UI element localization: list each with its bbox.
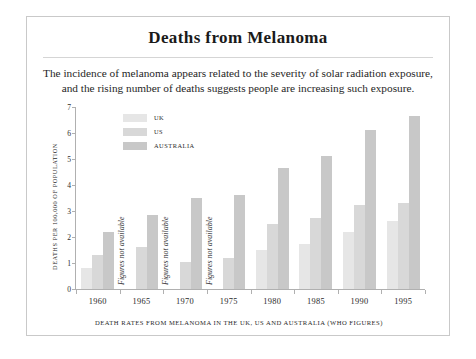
bar-group [76, 107, 120, 289]
bar-group [251, 107, 295, 289]
x-tick-mark [425, 290, 426, 294]
title-divider [43, 57, 433, 58]
y-tick-label: 5 [57, 155, 71, 164]
bar-group [294, 107, 338, 289]
y-tick-label: 4 [57, 181, 71, 190]
bar-us-1975 [223, 258, 234, 289]
y-tick-label: 0 [57, 285, 71, 294]
subtitle-line-2: and the rising number of deaths suggests… [62, 82, 415, 94]
x-tick-label: 1975 [207, 297, 251, 311]
bar-us-1965 [136, 247, 147, 289]
bar-us-1990 [354, 205, 365, 290]
bar-us-1980 [267, 224, 278, 289]
subtitle: The incidence of melanoma appears relate… [43, 66, 433, 95]
bar-au-1980 [278, 168, 289, 289]
x-tick-mark [120, 290, 121, 294]
chart-caption: DEATH RATES FROM MELANOMA IN THE UK, US … [27, 319, 451, 326]
bar-uk-1990 [343, 232, 354, 289]
bar-us-1960 [92, 255, 103, 289]
bar-group: Figures not available [207, 107, 251, 289]
x-tick-mark [294, 290, 295, 294]
x-tick-label: 1970 [163, 297, 207, 311]
page-title: Deaths from Melanoma [27, 28, 449, 48]
x-tick-label: 1985 [294, 297, 338, 311]
bar-us-1985 [310, 218, 321, 290]
chart-plot-area: DEATHS PER 100,000 OF POPULATION UK US A… [27, 97, 451, 337]
bar-uk-1995 [387, 221, 398, 289]
y-tick-label: 2 [57, 233, 71, 242]
bar-au-1985 [321, 156, 332, 289]
y-tick-label: 6 [57, 129, 71, 138]
bar-group: Figures not available [163, 107, 207, 289]
bar-us-1970 [180, 262, 191, 289]
bar-au-1975 [234, 195, 245, 289]
bar-au-1995 [409, 116, 420, 289]
missing-data-text: Figures not available [117, 216, 126, 285]
y-tick-label: 3 [57, 207, 71, 216]
missing-data-text: Figures not available [205, 216, 214, 285]
x-tick-mark [76, 290, 77, 294]
chart-card: Deaths from Melanoma The incidence of me… [26, 16, 450, 336]
bar-au-1990 [365, 130, 376, 289]
bar-uk-1985 [299, 244, 310, 290]
y-tick-label: 1 [57, 259, 71, 268]
missing-data-label: Figures not available [212, 107, 223, 289]
bar-au-1970 [191, 198, 202, 289]
bar-uk-1980 [256, 250, 267, 289]
bar-group: Figures not available [120, 107, 164, 289]
missing-data-text: Figures not available [161, 216, 170, 285]
x-tick-label: 1995 [381, 297, 425, 311]
x-tick-mark [163, 290, 164, 294]
chart-axes: 01234567 Figures not availableFigures no… [75, 107, 425, 290]
bar-au-1960 [103, 232, 114, 289]
x-tick-mark [251, 290, 252, 294]
bar-uk-1960 [81, 268, 92, 289]
bar-au-1965 [147, 215, 158, 289]
bar-group-container: Figures not availableFigures not availab… [76, 107, 425, 289]
y-tick-label: 7 [57, 103, 71, 112]
missing-data-label: Figures not available [125, 107, 136, 289]
x-tick-label: 1990 [338, 297, 382, 311]
bar-group [381, 107, 425, 289]
x-tick-label: 1965 [120, 297, 164, 311]
bar-group [338, 107, 382, 289]
x-tick-mark [338, 290, 339, 294]
x-tick-label: 1980 [251, 297, 295, 311]
x-tick-label: 1960 [76, 297, 120, 311]
subtitle-line-1: The incidence of melanoma appears relate… [43, 67, 433, 79]
x-axis-tick-labels: 19601965197019751980198519901995 [76, 297, 425, 311]
x-tick-mark [207, 290, 208, 294]
bar-us-1995 [398, 203, 409, 289]
missing-data-label: Figures not available [169, 107, 180, 289]
x-tick-mark [381, 290, 382, 294]
